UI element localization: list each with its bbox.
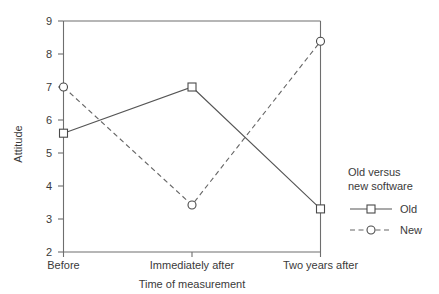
x-axis-tick-labels: Before Immediately after Two years after	[47, 259, 358, 271]
legend-marker-square-icon	[367, 205, 375, 213]
x-axis-title: Time of measurement	[139, 278, 246, 290]
data-point-new-before	[60, 83, 68, 91]
y-tick-label-9: 9	[46, 15, 52, 27]
data-point-new-immediately-after	[188, 201, 196, 209]
y-tick-label-7: 7	[46, 81, 52, 93]
y-axis-title: Attitude	[12, 125, 24, 162]
x-tick-label-before: Before	[47, 259, 79, 271]
series-old	[60, 83, 325, 213]
legend-item-new[interactable]: New	[350, 224, 422, 236]
y-tick-label-6: 6	[46, 114, 52, 126]
series-new	[60, 37, 325, 209]
legend-marker-circle-icon	[367, 226, 375, 234]
legend-title-line-2: new software	[348, 180, 413, 192]
data-point-old-immediately-after	[188, 83, 196, 91]
y-tick-label-5: 5	[46, 147, 52, 159]
legend-label-old: Old	[400, 203, 417, 215]
y-tick-label-3: 3	[46, 213, 52, 225]
legend-title-line-1: Old versus	[348, 166, 401, 178]
y-axis-tick-labels: 9 8 7 6 5 4 3 2	[46, 15, 52, 258]
plot-frame	[64, 21, 321, 252]
y-tick-label-4: 4	[46, 180, 52, 192]
x-axis-ticks	[64, 252, 321, 257]
y-tick-label-8: 8	[46, 48, 52, 60]
y-tick-label-2: 2	[46, 246, 52, 258]
x-tick-label-two-years-after: Two years after	[283, 259, 359, 271]
legend-label-new: New	[400, 224, 422, 236]
legend: Old versus new software Old New	[348, 166, 422, 236]
chart-canvas: 9 8 7 6 5 4 3 2 Before Immediately after…	[0, 0, 439, 294]
data-point-old-two-years-after	[317, 205, 325, 213]
x-tick-label-immediately-after: Immediately after	[150, 259, 235, 271]
attitude-line-chart: 9 8 7 6 5 4 3 2 Before Immediately after…	[0, 0, 439, 294]
data-point-old-before	[60, 129, 68, 137]
legend-item-old[interactable]: Old	[350, 203, 417, 215]
data-point-new-two-years-after	[317, 37, 325, 45]
